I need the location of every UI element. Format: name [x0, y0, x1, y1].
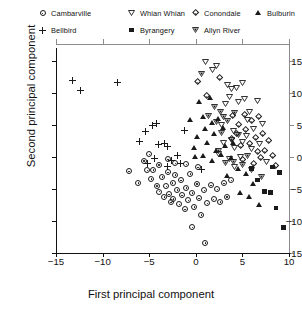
marker-plus-icon	[39, 27, 46, 34]
data-point	[202, 126, 208, 131]
data-point	[215, 116, 221, 121]
legend: CambarvilleWhian WhianConondaleBulburinB…	[0, 4, 302, 40]
legend-item-cambarville[interactable]: Cambarville	[36, 6, 91, 20]
marker-triangle-up-icon	[218, 152, 224, 157]
legend-marker	[125, 24, 138, 37]
marker-triangle-up-icon	[200, 114, 206, 119]
legend-marker	[125, 7, 138, 20]
legend-marker	[36, 24, 49, 37]
plot-area	[56, 48, 289, 253]
marker-triangle-up-icon	[220, 125, 226, 130]
x-tick-label: 0	[193, 256, 198, 267]
marker-circle-dot-icon	[40, 10, 46, 16]
legend-item-byrangery[interactable]: Byrangery	[125, 23, 175, 37]
legend-marker	[189, 24, 202, 37]
marker-triangle-up-icon	[209, 120, 215, 125]
x-tick-top	[196, 39, 197, 44]
data-point	[187, 117, 193, 122]
marker-triangle-up-icon	[224, 173, 230, 178]
x-tick-label: −5	[144, 256, 155, 267]
marker-triangle-up-icon	[191, 145, 197, 150]
data-point	[220, 125, 226, 130]
legend-label: Conondale	[204, 9, 241, 18]
y-axis-title: Second principal component	[25, 0, 37, 201]
marker-triangle-up-icon	[250, 181, 256, 186]
marker-triangle-down-icon	[128, 10, 135, 16]
data-point	[200, 114, 206, 119]
marker-triangle-up-icon	[196, 99, 202, 104]
data-point	[222, 143, 228, 148]
marker-triangle-up-icon	[228, 155, 234, 160]
legend-label: Whian Whian	[140, 9, 185, 18]
x-tick-top	[103, 39, 104, 44]
data-point	[209, 120, 215, 125]
x-tick-top	[289, 39, 290, 44]
legend-label: Byrangery	[140, 26, 175, 35]
data-point	[218, 152, 224, 157]
legend-label: Allyn River	[204, 26, 240, 35]
data-point	[207, 95, 213, 100]
data-point	[230, 140, 236, 145]
data-point	[213, 148, 219, 153]
x-tick-top	[242, 39, 243, 44]
legend-item-bulburin[interactable]: Bulburin	[252, 6, 295, 20]
data-point	[235, 166, 241, 171]
legend-marker	[36, 7, 49, 20]
data-point	[246, 194, 252, 199]
marker-triangle-up-icon	[235, 166, 241, 171]
marker-triangle-up-icon	[243, 171, 249, 176]
marker-triangle-up-icon	[211, 131, 217, 136]
marker-triangle-up-icon	[187, 117, 193, 122]
marker-triangle-up-icon	[213, 148, 219, 153]
data-point	[209, 158, 215, 163]
x-tick-label: −10	[94, 256, 110, 267]
x-tick-top	[56, 39, 57, 44]
legend-item-bellbird[interactable]: Bellbird	[36, 23, 76, 37]
marker-triangle-up-icon	[230, 140, 236, 145]
x-tick-top	[149, 39, 150, 44]
legend-label: Bulburin	[267, 9, 295, 18]
legend-item-conondale[interactable]: Conondale	[189, 6, 241, 20]
x-axis-title: First principal component	[0, 288, 302, 300]
data-point	[243, 171, 249, 176]
marker-triangle-up-icon	[209, 158, 215, 163]
marker-triangle-up-icon	[202, 126, 208, 131]
marker-triangle-up-icon	[204, 140, 210, 145]
data-point	[196, 99, 202, 104]
marker-triangle-up-icon	[256, 202, 262, 207]
marker-triangle-up-icon	[200, 153, 206, 158]
data-point	[211, 131, 217, 136]
data-point	[204, 140, 210, 145]
marker-triangle-up-icon	[255, 10, 261, 15]
data-point	[200, 153, 206, 158]
marker-square-icon	[129, 28, 134, 33]
legend-marker	[189, 7, 202, 20]
data-point	[250, 181, 256, 186]
legend-marker	[252, 7, 265, 20]
marker-triangle-up-icon	[207, 95, 213, 100]
frame-top-border	[56, 44, 289, 45]
data-point	[256, 202, 262, 207]
x-tick-label: 5	[240, 256, 245, 267]
legend-item-allyn-river[interactable]: Allyn River	[189, 23, 240, 37]
legend-label: Cambarville	[51, 9, 91, 18]
data-point	[228, 155, 234, 160]
data-point	[194, 134, 200, 139]
marker-triangle-up-icon	[192, 154, 198, 159]
marker-triangle-up-icon	[215, 116, 221, 121]
marker-triangle-up-icon	[194, 134, 200, 139]
data-point	[237, 190, 243, 195]
data-point	[224, 173, 230, 178]
scatter-plot-figure: CambarvilleWhian WhianConondaleBulburinB…	[0, 0, 302, 310]
marker-diamond-dot-icon	[192, 9, 200, 17]
series-bulburin	[56, 48, 289, 253]
legend-label: Bellbird	[51, 26, 76, 35]
x-tick-label: −15	[48, 256, 64, 267]
marker-triangle-up-icon	[246, 194, 252, 199]
marker-triangle-up-icon	[222, 143, 228, 148]
data-point	[191, 145, 197, 150]
legend-item-whian-whian[interactable]: Whian Whian	[125, 6, 185, 20]
marker-triangle-down-outline-icon	[192, 27, 199, 33]
data-point	[192, 154, 198, 159]
x-tick-label: 10	[284, 256, 295, 267]
